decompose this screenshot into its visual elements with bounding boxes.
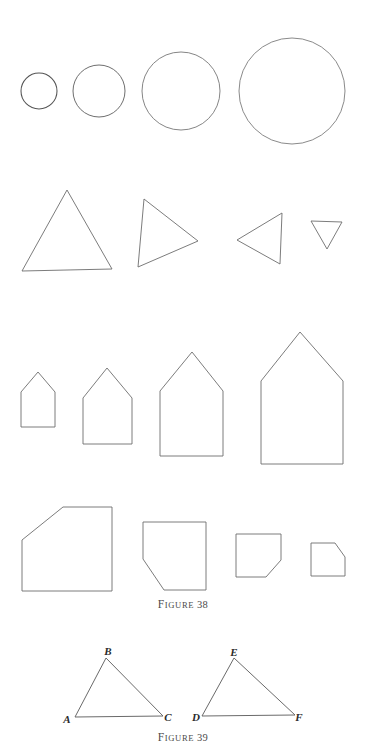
figure-38-caption-first-letter: F bbox=[158, 598, 165, 610]
bevel-3-bottom-right-cut bbox=[236, 534, 281, 577]
figure-39-caption: FIGURE 39 bbox=[0, 731, 366, 743]
house-4 bbox=[261, 332, 343, 464]
figure-38-caption-word: IGURE bbox=[165, 600, 194, 610]
circle-2 bbox=[73, 65, 125, 117]
triangle-DEF bbox=[202, 658, 295, 716]
figures-canvas bbox=[0, 0, 366, 755]
vertex-label-C: C bbox=[164, 711, 171, 723]
triangle-ABC bbox=[75, 658, 163, 717]
triangle-2-right-pointing bbox=[138, 199, 198, 267]
figure-39-caption-first-letter: F bbox=[158, 731, 165, 743]
figure-39-caption-word: IGURE bbox=[165, 733, 194, 743]
bevel-1-large-top-left-cut bbox=[22, 507, 112, 591]
circle-4 bbox=[239, 38, 345, 144]
triangles-row bbox=[22, 190, 342, 271]
circles-row bbox=[21, 38, 345, 144]
vertex-label-B: B bbox=[104, 645, 111, 657]
vertex-label-E: E bbox=[230, 646, 237, 658]
figure-39-caption-number: 39 bbox=[197, 732, 208, 743]
house-3 bbox=[160, 352, 223, 456]
bevel-2-bottom-left-cut bbox=[143, 522, 206, 590]
beveled-quads-row bbox=[22, 507, 345, 591]
figure-39-triangles bbox=[75, 658, 295, 717]
triangle-4-down-pointing-small bbox=[311, 221, 342, 249]
triangle-1-upright-large bbox=[22, 190, 112, 271]
house-1 bbox=[21, 372, 55, 427]
house-2 bbox=[83, 368, 132, 444]
figure-plate: FIGURE 38 A B C D E F FIGURE 39 bbox=[0, 0, 366, 755]
bevel-4-top-right-cut-small bbox=[311, 543, 345, 576]
triangle-3-left-pointing bbox=[237, 213, 282, 264]
houses-row bbox=[21, 332, 343, 464]
vertex-label-F: F bbox=[295, 711, 302, 723]
figure-38-caption-number: 38 bbox=[197, 599, 208, 610]
vertex-label-D: D bbox=[192, 711, 200, 723]
figure-38-caption: FIGURE 38 bbox=[0, 598, 366, 610]
vertex-label-A: A bbox=[63, 713, 70, 725]
circle-1 bbox=[21, 73, 57, 109]
circle-3 bbox=[142, 52, 220, 130]
